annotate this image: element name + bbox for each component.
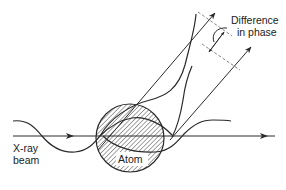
phase-label-line2: in phase xyxy=(237,26,277,38)
phase-difference-marker xyxy=(209,28,227,52)
scattered-ray-lower xyxy=(170,47,251,140)
diagram-canvas: X-ray beam Atom Difference in phase xyxy=(0,0,286,190)
xray-label-line2: beam xyxy=(13,154,40,166)
xray-label-line1: X-ray xyxy=(13,142,39,154)
atom-label: Atom xyxy=(118,153,143,165)
phase-label-line1: Difference xyxy=(231,14,279,26)
phase-leader-line xyxy=(213,28,227,42)
